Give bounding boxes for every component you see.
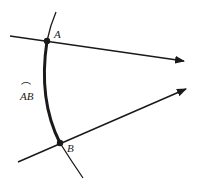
label-a: A xyxy=(53,28,61,40)
upper-ray xyxy=(10,36,184,61)
arc-ab xyxy=(44,41,60,143)
arc-label: AB xyxy=(19,90,34,102)
diagram-canvas: A B ⌒ AB xyxy=(0,0,197,184)
lower-ray xyxy=(18,89,186,162)
label-b: B xyxy=(67,142,74,154)
point-b xyxy=(57,140,63,146)
point-a xyxy=(44,38,50,44)
